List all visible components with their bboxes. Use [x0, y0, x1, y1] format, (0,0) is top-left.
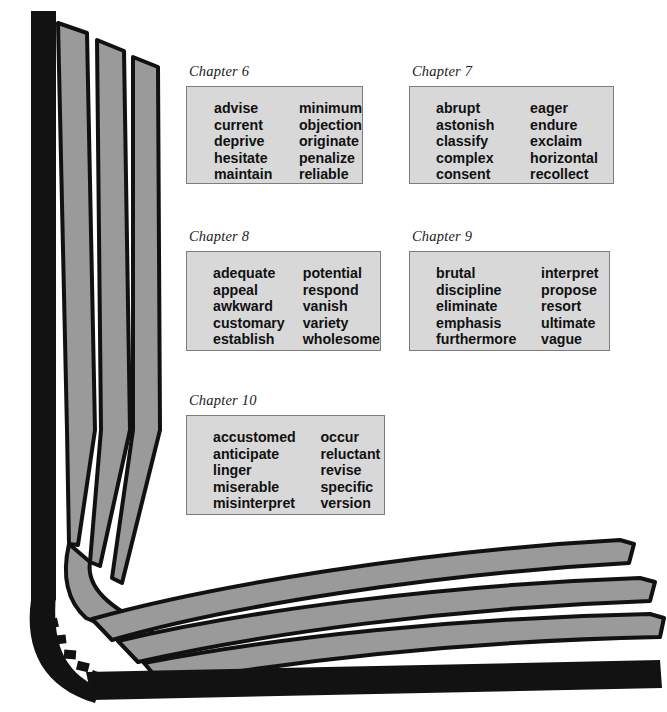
- word-item: objection: [299, 117, 362, 134]
- word-item: brutal: [436, 265, 541, 282]
- word-list-box: accustomed anticipate linger miserable m…: [186, 415, 385, 515]
- word-item: miserable: [213, 479, 320, 496]
- chapter-group-10: Chapter 10 accustomed anticipate linger …: [186, 393, 385, 515]
- word-item: discipline: [436, 282, 541, 299]
- book-corner-block: [30, 594, 100, 703]
- word-column-left: accustomed anticipate linger miserable m…: [187, 429, 320, 500]
- word-column-left: brutal discipline eliminate emphasis fur…: [410, 265, 541, 336]
- word-item: penalize: [299, 150, 362, 167]
- chapter-group-7: Chapter 7 abrupt astonish classify compl…: [409, 64, 614, 184]
- word-item: endure: [530, 117, 613, 134]
- chapter-label: Chapter 8: [189, 229, 381, 245]
- word-item: emphasis: [436, 315, 541, 332]
- word-item: wholesome: [303, 331, 380, 348]
- word-column-right: occur reluctant revise specific version: [320, 429, 384, 500]
- word-list-box: abrupt astonish classify complex consent…: [409, 86, 614, 184]
- word-item: accustomed: [213, 429, 320, 446]
- word-item: complex: [436, 150, 530, 167]
- word-item: interpret: [541, 265, 609, 282]
- word-item: eliminate: [436, 298, 541, 315]
- book-page-hinge: [66, 544, 152, 645]
- book-bottom-board: [86, 660, 662, 700]
- book-page-vertical-1: [58, 23, 95, 545]
- word-item: deprive: [214, 133, 299, 150]
- word-item: vague: [541, 331, 609, 348]
- book-page-horizontal-1: [92, 540, 634, 640]
- chapter-label: Chapter 9: [412, 229, 610, 245]
- word-item: potential: [303, 265, 380, 282]
- book-page-horizontal-2: [118, 578, 655, 662]
- word-list-box: brutal discipline eliminate emphasis fur…: [409, 251, 610, 351]
- word-item: appeal: [213, 282, 303, 299]
- word-list-box: adequate appeal awkward customary establ…: [186, 251, 381, 351]
- word-column-right: minimum objection originate penalize rel…: [299, 100, 362, 169]
- word-item: ultimate: [541, 315, 609, 332]
- book-page-horizontal-3: [144, 614, 664, 684]
- word-item: classify: [436, 133, 530, 150]
- book-binding-stitches: [45, 618, 119, 692]
- chapter-label: Chapter 10: [189, 393, 385, 409]
- word-item: revise: [320, 462, 384, 479]
- word-column-right: interpret propose resort ultimate vague: [541, 265, 609, 336]
- word-item: anticipate: [213, 446, 320, 463]
- word-item: misinterpret: [213, 495, 320, 512]
- word-item: awkward: [213, 298, 303, 315]
- word-item: specific: [320, 479, 384, 496]
- word-item: customary: [213, 315, 303, 332]
- chapter-group-6: Chapter 6 advise current deprive hesitat…: [186, 64, 363, 184]
- book-page-vertical-3: [112, 57, 160, 583]
- book-spine-board: [31, 11, 56, 612]
- word-item: consent: [436, 166, 530, 183]
- word-item: version: [320, 495, 384, 512]
- word-item: reliable: [299, 166, 362, 183]
- chapter-label: Chapter 7: [412, 64, 614, 80]
- word-item: propose: [541, 282, 609, 299]
- word-item: linger: [213, 462, 320, 479]
- word-item: astonish: [436, 117, 530, 134]
- chapter-group-9: Chapter 9 brutal discipline eliminate em…: [409, 229, 610, 351]
- word-column-left: adequate appeal awkward customary establ…: [187, 265, 303, 336]
- word-column-left: abrupt astonish classify complex consent: [410, 100, 530, 169]
- word-item: maintain: [214, 166, 299, 183]
- word-list-box: advise current deprive hesitate maintain…: [186, 86, 363, 184]
- word-item: occur: [320, 429, 384, 446]
- word-item: horizontal: [530, 150, 613, 167]
- word-item: furthermore: [436, 331, 541, 348]
- word-item: establish: [213, 331, 303, 348]
- word-item: current: [214, 117, 299, 134]
- chapter-group-8: Chapter 8 adequate appeal awkward custom…: [186, 229, 381, 351]
- word-column-left: advise current deprive hesitate maintain: [187, 100, 299, 169]
- word-item: resort: [541, 298, 609, 315]
- word-item: originate: [299, 133, 362, 150]
- word-item: hesitate: [214, 150, 299, 167]
- word-item: variety: [303, 315, 380, 332]
- word-column-right: potential respond vanish variety wholeso…: [303, 265, 380, 336]
- word-item: minimum: [299, 100, 362, 117]
- word-item: eager: [530, 100, 613, 117]
- word-item: adequate: [213, 265, 303, 282]
- book-page-vertical-2: [90, 40, 130, 566]
- word-item: advise: [214, 100, 299, 117]
- chapter-label: Chapter 6: [189, 64, 363, 80]
- word-item: reluctant: [320, 446, 384, 463]
- word-item: abrupt: [436, 100, 530, 117]
- word-item: recollect: [530, 166, 613, 183]
- word-column-right: eager endure exclaim horizontal recollec…: [530, 100, 613, 169]
- word-item: vanish: [303, 298, 380, 315]
- word-item: respond: [303, 282, 380, 299]
- word-item: exclaim: [530, 133, 613, 150]
